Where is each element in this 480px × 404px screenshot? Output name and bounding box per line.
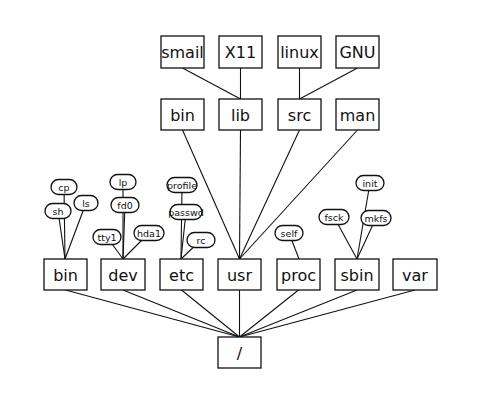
node-usr-lib-label: lib	[231, 106, 250, 125]
node-lib-src-smail-label: smail	[161, 43, 204, 62]
node-etc-label: etc	[169, 266, 194, 285]
leaf-etc-profile-label: profile	[167, 180, 197, 191]
leaf-bin-ls[interactable]: ls	[74, 196, 98, 211]
edge-root-proc	[240, 290, 299, 337]
node-var-label: var	[402, 266, 428, 285]
node-var[interactable]: var	[393, 259, 437, 290]
node-root-label: /	[237, 344, 243, 363]
filesystem-tree-diagram: /bindevetcusrprocsbinvarbinlibsrcmansmai…	[0, 0, 480, 404]
node-lib-src-linux-label: linux	[280, 43, 319, 62]
node-bin[interactable]: bin	[44, 259, 87, 290]
node-proc[interactable]: proc	[277, 259, 320, 290]
edge-root-sbin	[240, 290, 358, 337]
leaf-etc-profile[interactable]: profile	[167, 178, 197, 193]
node-usr[interactable]: usr	[218, 259, 261, 290]
node-usr-lib[interactable]: lib	[219, 99, 262, 130]
node-bin-label: bin	[53, 266, 78, 285]
node-usr-man-label: man	[340, 106, 376, 125]
leaf-bin-cp[interactable]: cp	[51, 180, 77, 195]
node-lib-src-X11[interactable]: X11	[219, 36, 262, 68]
leaf-dev-hda1-label: hda1	[137, 228, 161, 239]
leaf-proc-self-label: self	[281, 228, 298, 239]
leaf-dev-hda1[interactable]: hda1	[134, 226, 164, 241]
leaf-etc-rc-label: rc	[197, 235, 206, 246]
node-lib-src-linux[interactable]: linux	[278, 36, 321, 68]
node-dev[interactable]: dev	[101, 259, 145, 290]
node-lib-src-smail[interactable]: smail	[161, 36, 204, 68]
leaf-etc-passwd-label: passwd	[168, 207, 204, 218]
leaf-dev-tty1-label: tty1	[97, 232, 116, 243]
node-usr-bin[interactable]: bin	[161, 99, 204, 130]
leaf-sbin-mkfs[interactable]: mkfs	[361, 211, 391, 226]
node-lib-src-GNU[interactable]: GNU	[336, 36, 379, 68]
node-root[interactable]: /	[218, 337, 261, 368]
leaf-sbin-fsck-label: fsck	[324, 212, 344, 223]
node-usr-src[interactable]: src	[278, 99, 321, 130]
node-usr-src-label: src	[288, 106, 311, 125]
node-usr-man[interactable]: man	[336, 99, 379, 130]
leaf-bin-sh[interactable]: sh	[45, 204, 71, 219]
node-dev-label: dev	[108, 266, 137, 285]
leaf-dev-fd0[interactable]: fd0	[111, 198, 139, 213]
node-usr-label: usr	[227, 266, 252, 285]
node-sbin-label: sbin	[340, 266, 373, 285]
leaf-proc-self[interactable]: self	[275, 226, 303, 241]
leaf-bin-sh-label: sh	[53, 206, 64, 217]
node-usr-bin-label: bin	[170, 106, 195, 125]
edge-root-dev	[123, 290, 240, 337]
edge-root-bin	[66, 290, 240, 337]
edge-root-etc	[182, 290, 240, 337]
edge-lib-smail	[183, 68, 241, 99]
edge-bin-cp	[64, 187, 65, 259]
leaf-dev-lp-label: lp	[119, 177, 128, 188]
leaf-etc-rc[interactable]: rc	[187, 233, 215, 248]
leaf-sbin-mkfs-label: mkfs	[364, 213, 387, 224]
node-sbin[interactable]: sbin	[335, 259, 379, 290]
leaf-dev-fd0-label: fd0	[117, 200, 132, 211]
leaf-etc-passwd[interactable]: passwd	[168, 205, 204, 220]
leaf-bin-cp-label: cp	[58, 182, 69, 193]
leaf-sbin-init-label: init	[362, 178, 377, 189]
leaf-dev-lp[interactable]: lp	[110, 175, 136, 190]
node-proc-label: proc	[281, 266, 316, 285]
leaf-bin-ls-label: ls	[82, 198, 90, 209]
edge-usr-lib	[240, 130, 241, 259]
node-etc[interactable]: etc	[160, 259, 203, 290]
leaf-sbin-fsck[interactable]: fsck	[319, 210, 349, 225]
edge-root-var	[240, 290, 416, 337]
node-lib-src-GNU-label: GNU	[339, 43, 375, 62]
leaf-dev-tty1[interactable]: tty1	[93, 230, 121, 245]
leaf-sbin-init[interactable]: init	[356, 176, 384, 191]
edge-src-GNU	[300, 68, 358, 99]
node-lib-src-X11-label: X11	[225, 43, 256, 62]
